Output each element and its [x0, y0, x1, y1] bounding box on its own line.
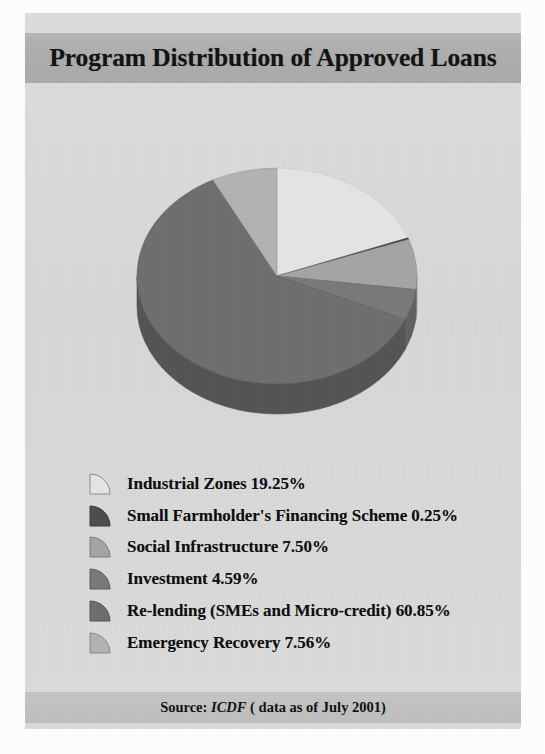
- title-bar: Program Distribution of Approved Loans: [25, 33, 521, 83]
- legend-item-small-farmholders[interactable]: Small Farmholder's Financing Scheme 0.25…: [87, 500, 517, 532]
- legend-item-label: Re-lending (SMEs and Micro-credit) 60.85…: [127, 601, 451, 621]
- legend-item-label: Social Infrastructure 7.50%: [127, 537, 329, 557]
- legend-item-emergency-recovery[interactable]: Emergency Recovery 7.56%: [87, 627, 517, 659]
- page-title: Program Distribution of Approved Loans: [49, 43, 496, 73]
- footer-bar: Source: ICDF ( data as of July 2001): [25, 692, 521, 723]
- legend-item-label: Small Farmholder's Financing Scheme 0.25…: [127, 506, 458, 526]
- legend-item-investment[interactable]: Investment 4.59%: [87, 563, 517, 595]
- legend-item-label: Industrial Zones 19.25%: [127, 474, 306, 494]
- legend-item-social-infrastructure[interactable]: Social Infrastructure 7.50%: [87, 532, 517, 564]
- legend-swatch-icon: [87, 566, 117, 592]
- legend-swatch-icon: [87, 503, 117, 529]
- legend-item-label: Investment 4.59%: [127, 569, 258, 589]
- figure-frame: Program Distribution of Approved Loans I…: [0, 0, 545, 754]
- legend: Industrial Zones 19.25% Small Farmholder…: [87, 468, 517, 659]
- source-note: ( data as of July 2001): [250, 699, 386, 715]
- legend-swatch-icon: [87, 630, 117, 656]
- legend-item-label: Emergency Recovery 7.56%: [127, 633, 331, 653]
- legend-swatch-icon: [87, 534, 117, 560]
- source-name: ICDF: [211, 699, 246, 715]
- pie-chart: Industrial Zones 19.25%Small Farmholder'…: [25, 91, 521, 451]
- legend-swatch-icon: [87, 471, 117, 497]
- legend-item-industrial-zones[interactable]: Industrial Zones 19.25%: [87, 468, 517, 500]
- pie-chart-plot-area: Industrial Zones 19.25%Small Farmholder'…: [25, 91, 521, 451]
- source-caption: Source: ICDF ( data as of July 2001): [160, 699, 386, 716]
- legend-item-re-lending[interactable]: Re-lending (SMEs and Micro-credit) 60.85…: [87, 595, 517, 627]
- chart-card: Program Distribution of Approved Loans I…: [25, 13, 521, 729]
- source-prefix: Source:: [160, 699, 207, 715]
- legend-swatch-icon: [87, 598, 117, 624]
- pie-slices: Industrial Zones 19.25%Small Farmholder'…: [137, 168, 417, 384]
